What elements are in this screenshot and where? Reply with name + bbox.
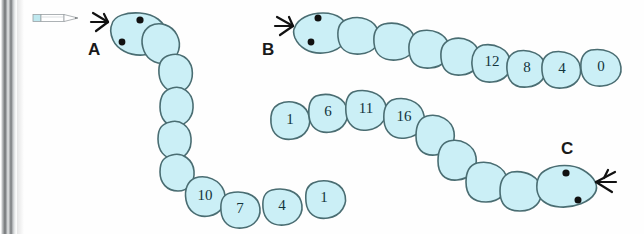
worm-b-number-4: 4: [558, 60, 566, 76]
worm-c-eye-top: [562, 169, 569, 176]
worm-a-eye-top: [136, 16, 143, 23]
worm-a-body-segment: [158, 121, 191, 159]
worm-a-segment-1: 1: [306, 181, 346, 218]
worm-c-antennae-icon: [596, 170, 616, 192]
worm-a-segment-4: 4: [263, 189, 302, 225]
worm-c-body-segment: [500, 172, 541, 211]
worm-b-segment-8: 8: [507, 51, 546, 88]
worm-c-segment-11: 11: [346, 91, 387, 131]
worm-b-segment-12: 12: [472, 45, 511, 82]
worm-b-number-0: 0: [597, 58, 605, 74]
worm-a-eye-bottom: [119, 39, 126, 46]
worm-c-number-6: 6: [324, 103, 332, 119]
worm-a-number-10: 10: [198, 187, 213, 203]
worm-b-eye-top: [315, 15, 322, 22]
worm-b: 12 8 4 0: [275, 13, 621, 88]
worm-a-antennae-icon: [91, 13, 108, 31]
worm-c-segment-6: 6: [309, 94, 348, 132]
worm-label-c: C: [561, 139, 573, 159]
worm-label-a: A: [88, 40, 100, 60]
worm-b-eye-bottom: [308, 39, 315, 46]
worm-c-segment-1: 1: [271, 102, 310, 139]
worm-label-b: B: [262, 40, 274, 60]
worm-a-body-segment: [159, 54, 193, 92]
worm-a-number-1: 1: [320, 189, 328, 205]
worm-b-number-8: 8: [523, 59, 531, 75]
worm-b-segment-0: 0: [581, 50, 621, 87]
worm-a-segment-7: 7: [221, 192, 260, 228]
worm-a-body-segment: [160, 87, 193, 126]
worm-a-number-4: 4: [278, 197, 286, 213]
worksheet-page: 10 7 4 1: [0, 0, 644, 234]
worm-b-body-segment: [338, 18, 379, 54]
worm-c-number-11: 11: [359, 100, 373, 116]
worm-b-antennae-icon: [275, 17, 293, 35]
worm-a-number-7: 7: [236, 200, 244, 216]
worm-c-eye-bottom: [575, 197, 582, 204]
caterpillar-illustration: 10 7 4 1: [0, 0, 644, 234]
worm-b-number-12: 12: [485, 53, 500, 69]
worm-c-number-1: 1: [286, 111, 294, 127]
worm-c-number-16: 16: [397, 108, 413, 124]
worm-b-segment-4: 4: [542, 52, 581, 89]
worm-a-segment-10: 10: [185, 177, 225, 217]
